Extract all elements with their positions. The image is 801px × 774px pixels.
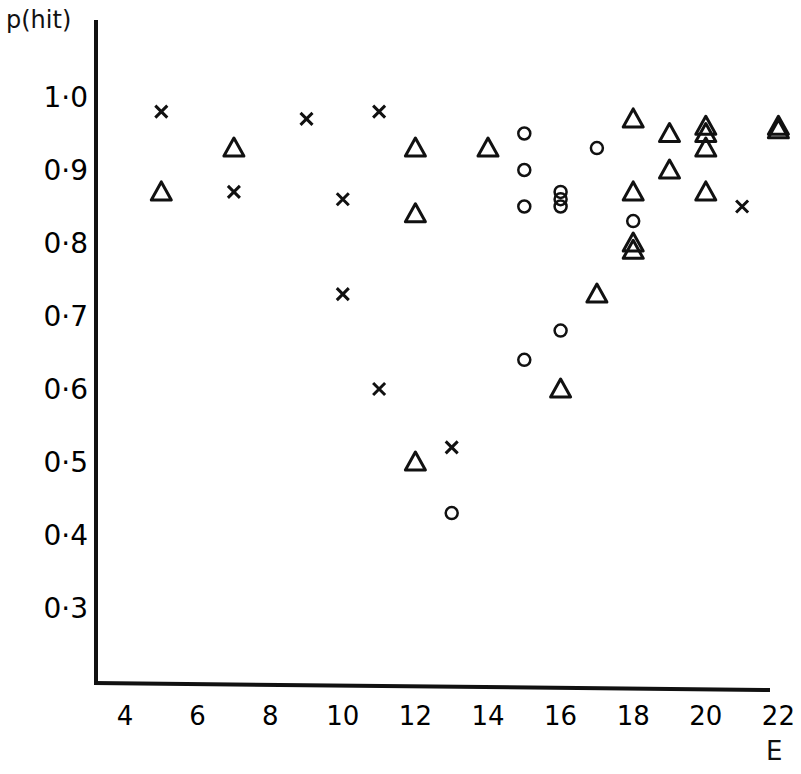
triangle-marker (405, 204, 425, 222)
x-tick-label: 14 (471, 701, 504, 731)
circle-marker (518, 354, 530, 366)
x-tick-label: 22 (762, 701, 795, 731)
triangle-marker (405, 138, 425, 156)
x-tick-label: 4 (117, 701, 134, 731)
x-tick-labels: 46810121416182022 (117, 701, 795, 731)
triangle-marker (151, 182, 171, 200)
x-axis-label: E (766, 738, 782, 764)
cross-marker (337, 288, 349, 300)
scatter-plot: 1·00·90·80·70·60·50·40·3 468101214161820… (0, 0, 801, 774)
circle-marker (627, 215, 639, 227)
circle-marker (518, 164, 530, 176)
triangle-marker (623, 182, 643, 200)
circle-marker (591, 142, 603, 154)
circle-marker (555, 325, 567, 337)
cross-marker (155, 106, 167, 118)
x-tick-label: 16 (544, 701, 577, 731)
cross-marker (337, 193, 349, 205)
triangle-marker (660, 160, 680, 178)
y-tick-label: 0·9 (43, 154, 88, 187)
x-tick-label: 12 (399, 701, 432, 731)
y-tick-label: 0·7 (43, 300, 88, 333)
circle-marker (518, 128, 530, 140)
circle-marker (446, 507, 458, 519)
y-tick-label: 0·6 (43, 373, 88, 406)
x-tick-label: 10 (326, 701, 359, 731)
triangle-marker (696, 182, 716, 200)
cross-marker (373, 106, 385, 118)
y-tick-label: 0·8 (43, 227, 88, 260)
triangle-marker (660, 124, 680, 142)
triangle-marker (623, 109, 643, 127)
y-tick-label: 1·0 (43, 81, 88, 114)
circle-marker (555, 201, 567, 213)
triangle-marker (224, 138, 244, 156)
cross-marker (736, 201, 748, 213)
triangle-marker (551, 379, 571, 397)
axes (94, 20, 770, 690)
y-tick-label: 0·5 (43, 446, 88, 479)
y-tick-label: 0·3 (43, 592, 88, 625)
y-axis-label: p(hit) (6, 8, 71, 32)
x-tick-label: 20 (689, 701, 722, 731)
cross-marker (446, 441, 458, 453)
cross-marker (373, 383, 385, 395)
circle-marker (518, 201, 530, 213)
y-tick-label: 0·4 (43, 519, 88, 552)
triangle-marker (478, 138, 498, 156)
cross-marker (228, 186, 240, 198)
triangle-marker (405, 452, 425, 470)
x-tick-label: 6 (189, 701, 206, 731)
y-tick-labels: 1·00·90·80·70·60·50·40·3 (43, 81, 88, 625)
x-tick-label: 18 (617, 701, 650, 731)
x-tick-label: 8 (262, 701, 279, 731)
triangle-marker (587, 284, 607, 302)
cross-marker (301, 113, 313, 125)
data-points (151, 106, 788, 519)
